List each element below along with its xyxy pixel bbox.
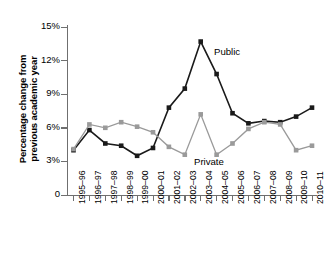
data-point-public bbox=[167, 105, 172, 110]
data-point-public bbox=[103, 141, 108, 146]
data-point-public bbox=[119, 143, 124, 148]
data-point-private bbox=[183, 152, 188, 157]
data-point-public bbox=[246, 121, 251, 126]
data-point-private bbox=[119, 120, 124, 125]
chart-plot-lines bbox=[0, 0, 332, 268]
data-point-private bbox=[230, 141, 235, 146]
data-point-private bbox=[167, 145, 172, 150]
data-point-private bbox=[103, 126, 108, 131]
data-point-public bbox=[183, 86, 188, 91]
chart-container: Percentage change from previous academic… bbox=[0, 0, 332, 268]
data-point-public bbox=[151, 146, 156, 151]
data-point-private bbox=[135, 124, 140, 129]
data-point-private bbox=[278, 122, 283, 127]
data-point-private bbox=[262, 120, 267, 125]
data-point-private bbox=[151, 130, 156, 135]
data-point-private bbox=[198, 112, 203, 117]
data-point-public bbox=[135, 154, 140, 159]
data-point-public bbox=[87, 128, 92, 133]
data-point-private bbox=[310, 143, 315, 148]
series-line-public bbox=[74, 42, 313, 156]
data-point-public bbox=[230, 111, 235, 116]
series-label-private: Private bbox=[194, 156, 224, 167]
data-point-public bbox=[310, 105, 315, 110]
data-point-public bbox=[294, 114, 299, 119]
data-point-private bbox=[246, 127, 251, 132]
series-label-public: Public bbox=[214, 46, 240, 57]
data-point-private bbox=[71, 147, 76, 152]
series-line-private bbox=[74, 114, 313, 154]
data-point-public bbox=[198, 39, 203, 44]
data-point-private bbox=[294, 148, 299, 153]
data-point-public bbox=[214, 72, 219, 77]
data-point-private bbox=[87, 122, 92, 127]
